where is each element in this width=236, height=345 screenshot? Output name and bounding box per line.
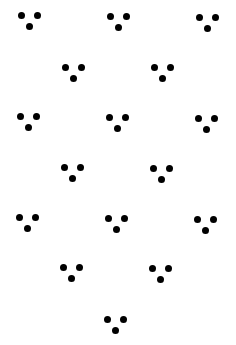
top-dot	[76, 264, 83, 271]
top-dot	[33, 113, 40, 120]
top-dot	[34, 12, 41, 19]
top-dot	[194, 216, 201, 223]
top-dot	[106, 114, 113, 121]
top-dot	[149, 265, 156, 272]
bottom-dot	[159, 75, 166, 82]
bottom-dot	[203, 126, 210, 133]
dot-pattern-canvas	[0, 0, 236, 345]
top-dot	[150, 165, 157, 172]
bottom-dot	[24, 225, 31, 232]
bottom-dot	[26, 23, 33, 30]
top-dot	[121, 215, 128, 222]
bottom-dot	[204, 25, 211, 32]
top-dot	[16, 214, 23, 221]
top-dot	[167, 64, 174, 71]
top-dot	[120, 316, 127, 323]
top-dot	[195, 115, 202, 122]
bottom-dot	[114, 125, 121, 132]
top-dot	[122, 114, 129, 121]
top-dot	[77, 164, 84, 171]
bottom-dot	[112, 327, 119, 334]
top-dot	[123, 13, 130, 20]
top-dot	[210, 216, 217, 223]
top-dot	[60, 264, 67, 271]
top-dot	[105, 215, 112, 222]
bottom-dot	[158, 176, 165, 183]
top-dot	[78, 64, 85, 71]
bottom-dot	[202, 227, 209, 234]
top-dot	[196, 14, 203, 21]
top-dot	[61, 164, 68, 171]
bottom-dot	[157, 276, 164, 283]
top-dot	[166, 165, 173, 172]
bottom-dot	[69, 175, 76, 182]
top-dot	[104, 316, 111, 323]
top-dot	[107, 13, 114, 20]
bottom-dot	[68, 275, 75, 282]
top-dot	[18, 12, 25, 19]
bottom-dot	[115, 24, 122, 31]
top-dot	[165, 265, 172, 272]
top-dot	[62, 64, 69, 71]
top-dot	[211, 115, 218, 122]
bottom-dot	[25, 124, 32, 131]
bottom-dot	[113, 226, 120, 233]
top-dot	[32, 214, 39, 221]
top-dot	[151, 64, 158, 71]
bottom-dot	[70, 75, 77, 82]
top-dot	[212, 14, 219, 21]
top-dot	[17, 113, 24, 120]
